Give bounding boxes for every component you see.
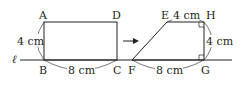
fg-length-label: 8 cm	[156, 64, 184, 77]
eh-length-label: 4 cm	[173, 9, 201, 22]
vertex-d: D	[112, 9, 121, 22]
right-angle-g-icon	[199, 55, 204, 60]
line-l-label: ℓ	[12, 53, 17, 66]
rectangle-abcd	[44, 22, 117, 60]
hg-length-label: 4 cm	[206, 35, 234, 48]
vertex-c: C	[113, 64, 121, 77]
vertex-h: H	[206, 9, 216, 22]
vertex-a: A	[38, 9, 48, 22]
vertex-f: F	[128, 64, 136, 77]
vertex-e: E	[161, 9, 169, 22]
vertex-b: B	[39, 64, 47, 77]
trapezoid-efgh	[132, 22, 204, 60]
ab-length-label: 4 cm	[17, 35, 45, 48]
right-angle-h-icon	[199, 22, 204, 27]
arrow-right-icon	[123, 38, 139, 44]
vertex-g: G	[201, 64, 210, 77]
transformation-diagram: ℓ A B C D 4 cm 8 cm E H G F 4 cm 4 cm 8 …	[0, 0, 247, 85]
bc-length-label: 8 cm	[68, 64, 96, 77]
